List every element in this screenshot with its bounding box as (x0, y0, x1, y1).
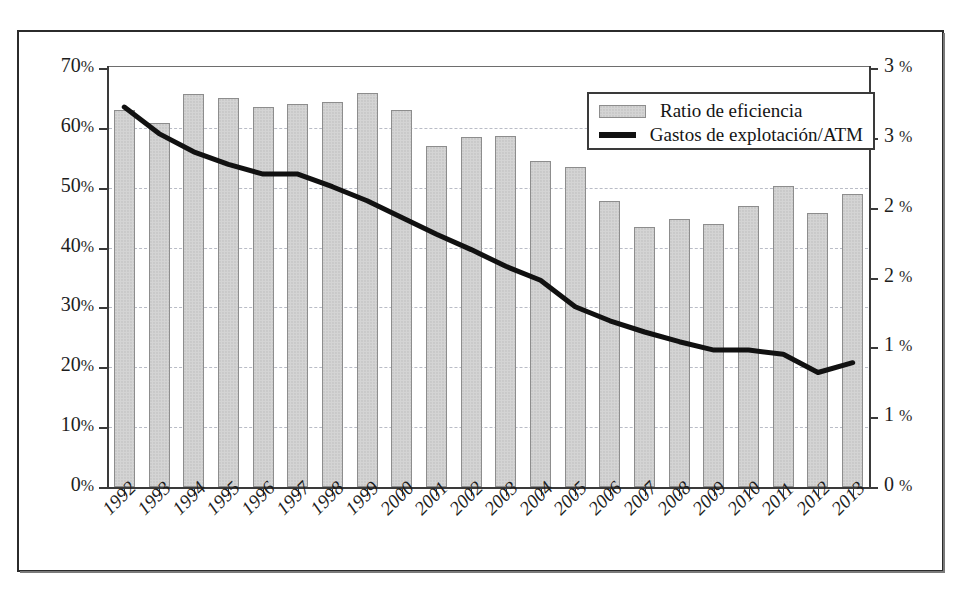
bar-2012 (807, 213, 828, 487)
bar-1998 (322, 102, 343, 487)
y-tick-left (99, 248, 107, 250)
y-tick-label-right: 1 % (884, 333, 912, 356)
chart-legend: Ratio de eficiencia Gastos de explotació… (587, 92, 875, 150)
y-tick-label-left: 30% (16, 293, 94, 316)
chart-figure: 0%10%20%30%40%50%60%70% 0 %1 %1 %2 %2 %3… (0, 0, 961, 599)
y-tick-right (870, 278, 878, 280)
y-tick-label-left: 0% (16, 473, 94, 496)
y-tick-left (99, 427, 107, 429)
y-tick-label-left: 50% (16, 174, 94, 197)
legend-item-ratio-de-eficiencia: Ratio de eficiencia (599, 99, 863, 123)
line-swatch-icon (599, 132, 636, 138)
y-tick-label-right: 0 % (884, 473, 912, 496)
y-tick-right (870, 347, 878, 349)
bar-2002 (461, 137, 482, 487)
y-tick-right (870, 68, 878, 70)
bar-2003 (495, 136, 516, 487)
bar-swatch-icon (599, 105, 646, 118)
y-tick-left (99, 68, 107, 70)
bar-2000 (391, 110, 412, 487)
bar-1999 (357, 93, 378, 487)
y-tick-label-right: 3 % (884, 54, 912, 77)
bar-2011 (773, 186, 794, 487)
bar-2008 (669, 219, 690, 487)
y-tick-left (99, 188, 107, 190)
bar-2010 (738, 206, 759, 487)
bar-2007 (634, 227, 655, 487)
bar-2006 (599, 201, 620, 487)
y-tick-label-left: 20% (16, 353, 94, 376)
bar-2001 (426, 146, 447, 487)
y-tick-label-right: 2 % (884, 194, 912, 217)
legend-label: Gastos de explotación/ATM (650, 124, 863, 146)
legend-item-gastos-de-explotacion-atm: Gastos de explotación/ATM (599, 123, 863, 147)
y-tick-left (99, 307, 107, 309)
y-tick-label-left: 10% (16, 413, 94, 436)
bar-2009 (703, 224, 724, 487)
y-tick-right (870, 487, 878, 489)
bar-2004 (530, 161, 551, 487)
y-tick-right (870, 417, 878, 419)
bar-1996 (253, 107, 274, 487)
bar-1992 (114, 110, 135, 487)
y-tick-left (99, 128, 107, 130)
y-tick-left (99, 487, 107, 489)
y-axis-left-line (107, 66, 109, 489)
bar-2013 (842, 194, 863, 487)
y-tick-label-left: 60% (16, 114, 94, 137)
plot-top-border (107, 66, 870, 67)
legend-label: Ratio de eficiencia (660, 100, 802, 122)
bar-1995 (218, 98, 239, 487)
chart-plot: 0%10%20%30%40%50%60%70% 0 %1 %1 %2 %2 %3… (0, 0, 961, 599)
y-tick-left (99, 367, 107, 369)
bar-2005 (565, 167, 586, 487)
y-tick-label-right: 3 % (884, 124, 912, 147)
y-tick-right (870, 208, 878, 210)
y-tick-label-right: 2 % (884, 264, 912, 287)
bar-1997 (287, 104, 308, 487)
y-tick-label-right: 1 % (884, 403, 912, 426)
bar-1993 (149, 123, 170, 487)
bar-1994 (183, 94, 204, 487)
y-tick-label-left: 40% (16, 234, 94, 257)
y-tick-label-left: 70% (16, 54, 94, 77)
